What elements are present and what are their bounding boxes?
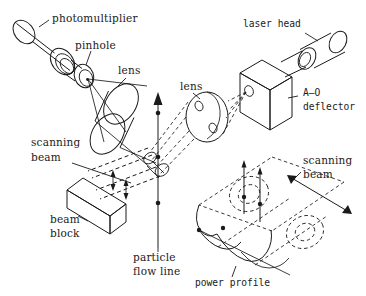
photomultiplier-body	[9, 16, 82, 81]
focusing-lens-body	[186, 92, 228, 142]
label-beam-block-line2: block	[50, 227, 80, 239]
label-ao-deflector-line1: A–O	[303, 87, 320, 99]
ao-deflector-box	[240, 60, 292, 130]
label-laser-head: laser head	[243, 18, 301, 30]
label-photomultiplier: photomultiplier	[52, 12, 138, 24]
label-leader-lines	[39, 20, 318, 277]
label-scanning-beam-left-line1: scanning	[31, 136, 81, 148]
label-scanning-beam-right-line1: scanning	[303, 154, 353, 166]
label-ao-deflector-line2: deflector	[303, 101, 355, 113]
label-lens-collection: lens	[118, 64, 141, 76]
label-scanning-beam-left-line2: beam	[31, 151, 61, 163]
label-beam-block-line1: beam	[50, 213, 80, 225]
collection-cone-rays	[88, 79, 147, 142]
label-particle-flow-line1: particle	[133, 251, 176, 263]
laser-head-body	[281, 28, 350, 77]
beam-width-ticks	[111, 170, 129, 200]
beam-block-body	[67, 178, 126, 234]
label-power-profile: power profile	[195, 277, 270, 289]
label-lens-focusing: lens	[180, 80, 203, 92]
label-pinhole: pinhole	[75, 39, 116, 51]
scanning-beam-rays	[88, 92, 246, 199]
schematic-drawing	[0, 0, 366, 296]
collection-lens-body	[83, 77, 156, 169]
label-scanning-beam-right-line2: beam	[303, 168, 333, 180]
optical-schematic-figure: photomultiplier pinhole lens lens laser …	[0, 0, 366, 296]
label-particle-flow-line2: flow line	[133, 265, 180, 277]
